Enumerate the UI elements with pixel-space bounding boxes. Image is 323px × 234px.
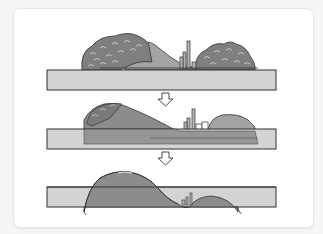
stage-3: [47, 172, 276, 215]
hill-right: [208, 115, 256, 130]
stage-1: [47, 33, 276, 90]
ground-layer: [47, 70, 276, 90]
down-arrow-icon: [158, 93, 173, 106]
tree-cluster-right: [196, 42, 255, 70]
down-arrow-icon: [158, 152, 173, 165]
stage-2: [47, 103, 276, 149]
subsidence-diagram: [0, 0, 323, 234]
factory-icon: [184, 109, 208, 130]
